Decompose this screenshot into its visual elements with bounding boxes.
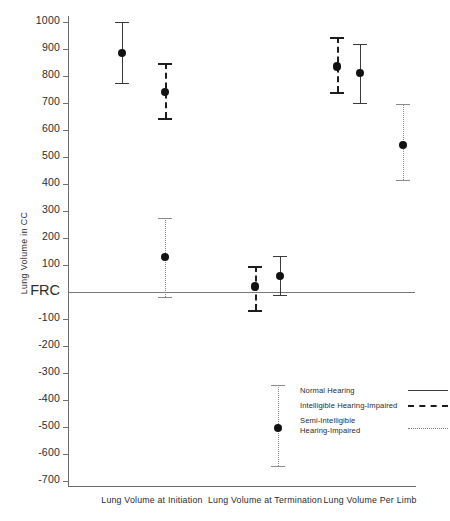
- y-tick-mark: [63, 76, 68, 77]
- y-tick-mark: [63, 49, 68, 50]
- legend-label: Intelligible Hearing-Impaired: [300, 401, 404, 411]
- y-tick-mark: [63, 211, 68, 212]
- y-tick-mark: [63, 130, 68, 131]
- legend-item-1: Normal Hearing: [300, 386, 448, 399]
- y-tick-mark: [63, 157, 68, 158]
- data-marker: [276, 272, 284, 280]
- y-tick-label: 400: [42, 176, 60, 188]
- y-tick-label: 1000: [36, 14, 60, 26]
- error-bar-cap-lower: [158, 118, 172, 120]
- error-bar-cap-lower: [271, 466, 285, 467]
- legend-item-2: Intelligible Hearing-Impaired: [300, 401, 448, 414]
- chart-legend: Normal HearingIntelligible Hearing-Impai…: [300, 386, 448, 437]
- y-tick-mark: [63, 319, 68, 320]
- data-marker: [399, 141, 407, 149]
- y-tick-mark: [63, 238, 68, 239]
- x-axis-label-1: Lung Volume at Initiation: [87, 495, 217, 506]
- y-tick-mark: [63, 454, 68, 455]
- y-tick-mark: [63, 373, 68, 374]
- legend-item-3: Semi-IntelligibleHearing-Impaired: [300, 416, 448, 435]
- y-tick-label: FRC: [30, 282, 60, 298]
- error-bar-cap-upper: [248, 266, 262, 268]
- y-tick-label: 700: [42, 95, 60, 107]
- y-tick-label: 500: [42, 149, 60, 161]
- error-bar-cap-upper: [271, 385, 285, 386]
- legend-key-solid: [408, 390, 448, 391]
- data-marker: [251, 282, 259, 290]
- error-bar-cap-lower: [273, 295, 287, 296]
- error-bar-cap-upper: [158, 218, 172, 219]
- legend-key-dotted: [408, 428, 448, 429]
- error-bar-cap-lower: [353, 103, 367, 104]
- error-bar-cap-upper: [396, 104, 410, 105]
- y-tick-mark: [63, 265, 68, 266]
- error-bar-cap-upper: [158, 63, 172, 65]
- error-bar-cap-upper: [353, 44, 367, 45]
- y-tick-label: -400: [38, 392, 60, 404]
- legend-label: Semi-Intelligible: [300, 416, 404, 426]
- y-tick-mark: [63, 427, 68, 428]
- y-tick-mark: [63, 22, 68, 23]
- y-tick-label: 800: [42, 68, 60, 80]
- lung-volume-chart: Lung Volume in CC 1000900800700600500400…: [0, 0, 450, 521]
- error-bar-cap-lower: [115, 83, 129, 84]
- y-tick-label: 300: [42, 203, 60, 215]
- error-bar-cap-lower: [330, 92, 344, 94]
- error-bar-cap-upper: [273, 256, 287, 257]
- y-tick-label: -300: [38, 365, 60, 377]
- error-bar-cap-upper: [330, 37, 344, 39]
- data-marker: [333, 62, 341, 70]
- error-bar-cap-lower: [248, 310, 262, 312]
- x-axis-label-3: Lung Volume Per Limb: [305, 495, 435, 506]
- data-marker: [161, 253, 169, 261]
- error-bar-cap-lower: [396, 180, 410, 181]
- y-tick-mark: [63, 346, 68, 347]
- error-bar-cap-lower: [158, 297, 172, 298]
- y-tick-mark: [63, 400, 68, 401]
- legend-key-dashed: [408, 405, 448, 407]
- y-tick-mark: [63, 481, 68, 482]
- y-tick-mark: [63, 184, 68, 185]
- y-tick-label: -700: [38, 473, 60, 485]
- y-tick-label: -200: [38, 338, 60, 350]
- legend-label-line2: Hearing-Impaired: [300, 426, 404, 436]
- frc-reference-line: [68, 292, 415, 293]
- y-tick-label: 900: [42, 41, 60, 53]
- y-tick-label: 100: [42, 257, 60, 269]
- y-axis-title: Lung Volume in CC: [19, 183, 29, 323]
- y-tick-label: 200: [42, 230, 60, 242]
- y-tick-label: -600: [38, 446, 60, 458]
- y-tick-mark: [63, 103, 68, 104]
- y-tick-label: -100: [38, 311, 60, 323]
- legend-label: Normal Hearing: [300, 386, 404, 396]
- error-bar-cap-upper: [115, 22, 129, 23]
- y-tick-label: 600: [42, 122, 60, 134]
- y-tick-label: -500: [38, 419, 60, 431]
